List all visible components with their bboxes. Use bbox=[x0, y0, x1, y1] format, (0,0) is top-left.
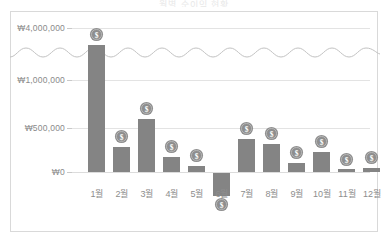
svg-text:$: $ bbox=[95, 31, 99, 40]
coin-dollar-icon: $ bbox=[314, 134, 329, 149]
bar-12[interactable] bbox=[363, 168, 380, 172]
svg-text:$: $ bbox=[270, 130, 274, 139]
svg-text:$: $ bbox=[220, 201, 224, 210]
bar-10[interactable] bbox=[313, 152, 330, 172]
coin-dollar-icon: $ bbox=[239, 121, 254, 136]
svg-text:$: $ bbox=[120, 133, 124, 142]
chart-title: 월별 순이익 현황 bbox=[0, 0, 389, 7]
bar-11[interactable] bbox=[338, 169, 355, 172]
svg-text:$: $ bbox=[345, 156, 349, 165]
bar-5[interactable] bbox=[188, 166, 205, 172]
coin-dollar-icon: $ bbox=[339, 152, 354, 167]
coin-dollar-icon: $ bbox=[114, 129, 129, 144]
bar-2[interactable] bbox=[113, 147, 130, 172]
svg-text:$: $ bbox=[195, 152, 199, 161]
coin-dollar-icon: $ bbox=[139, 101, 154, 116]
svg-text:$: $ bbox=[320, 138, 324, 147]
svg-text:$: $ bbox=[295, 149, 299, 158]
svg-text:$: $ bbox=[145, 105, 149, 114]
svg-text:$: $ bbox=[170, 143, 174, 152]
bar-1[interactable] bbox=[88, 45, 105, 172]
bar-9[interactable] bbox=[288, 163, 305, 172]
svg-text:$: $ bbox=[245, 125, 249, 134]
coin-dollar-icon: $ bbox=[264, 126, 279, 141]
bar-4[interactable] bbox=[163, 157, 180, 172]
svg-text:$: $ bbox=[370, 154, 374, 163]
coin-dollar-icon: $ bbox=[289, 145, 304, 160]
bar-7[interactable] bbox=[238, 139, 255, 172]
bars-container: $ 1월 $ 2월 $ 3월 bbox=[10, 11, 380, 233]
bar-3[interactable] bbox=[138, 119, 155, 172]
coin-dollar-icon: $ bbox=[164, 139, 179, 154]
coin-dollar-icon: $ bbox=[364, 150, 379, 165]
coin-dollar-icon: $ bbox=[89, 27, 104, 42]
coin-dollar-icon: $ bbox=[189, 148, 204, 163]
chart-plot-area: ₩4,000,000 ₩1,000,000 ₩500,000 ₩0 $ 1월 $ bbox=[10, 11, 380, 233]
bar-8[interactable] bbox=[263, 144, 280, 172]
xtick-label-12: 12월 bbox=[357, 187, 387, 200]
